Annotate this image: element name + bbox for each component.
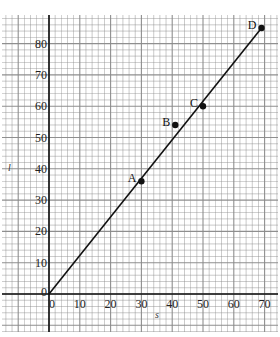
y-axis-label: l	[8, 162, 11, 173]
x-tick-label: 10	[74, 297, 86, 311]
y-tick-label: 30	[35, 193, 47, 207]
x-tick-label: 30	[135, 297, 147, 311]
x-tick-label: 20	[105, 297, 117, 311]
x-tick-label: 50	[197, 297, 209, 311]
x-tick-label: 40	[166, 297, 178, 311]
data-point	[200, 103, 206, 109]
y-tick-label: 50	[35, 131, 47, 145]
y-tick-label: 0	[41, 285, 47, 299]
point-label: C	[190, 96, 198, 110]
x-tick-label: 0	[49, 297, 55, 311]
chart: 01020304050607001020304050607080 ABCD s …	[0, 0, 280, 337]
point-label: A	[128, 171, 137, 185]
x-tick-label: 70	[259, 297, 271, 311]
y-tick-label: 80	[35, 37, 47, 51]
x-axis-label: s	[155, 309, 159, 320]
point-label: B	[162, 115, 170, 129]
x-tick-label: 60	[228, 297, 240, 311]
y-tick-label: 10	[35, 256, 47, 270]
data-point	[138, 178, 144, 184]
y-tick-label: 60	[35, 99, 47, 113]
tick-labels: 01020304050607001020304050607080	[35, 37, 271, 311]
y-tick-label: 70	[35, 68, 47, 82]
fit-line	[49, 28, 262, 294]
data-point	[258, 25, 264, 31]
y-tick-label: 20	[35, 224, 47, 238]
point-label: D	[248, 18, 257, 32]
data-point	[172, 122, 178, 128]
y-tick-label: 40	[35, 162, 47, 176]
